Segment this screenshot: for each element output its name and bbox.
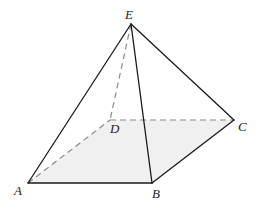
base-face-abcd	[28, 120, 234, 183]
pyramid-diagram: E D C A B	[0, 0, 260, 211]
vertex-label-e: E	[124, 7, 133, 22]
vertex-label-d: D	[109, 121, 120, 136]
edge-ec	[131, 24, 234, 120]
edge-ed-hidden	[110, 24, 131, 120]
vertex-label-a: A	[13, 183, 22, 198]
vertex-label-b: B	[152, 186, 160, 201]
vertex-label-c: C	[238, 119, 247, 134]
